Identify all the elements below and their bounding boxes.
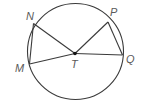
label-m: M xyxy=(15,62,25,74)
chord-mn xyxy=(30,24,34,65)
radius-tp xyxy=(75,22,108,54)
radius-tm xyxy=(30,54,76,65)
label-q: Q xyxy=(126,53,135,65)
label-p: P xyxy=(110,6,118,18)
label-t: T xyxy=(71,58,79,70)
label-n: N xyxy=(26,10,34,22)
center-point-t xyxy=(73,52,77,56)
chord-pq xyxy=(108,22,123,55)
radius-tn xyxy=(34,24,76,54)
radius-tq xyxy=(75,54,123,56)
circle-diagram: N M P Q T xyxy=(0,0,148,111)
